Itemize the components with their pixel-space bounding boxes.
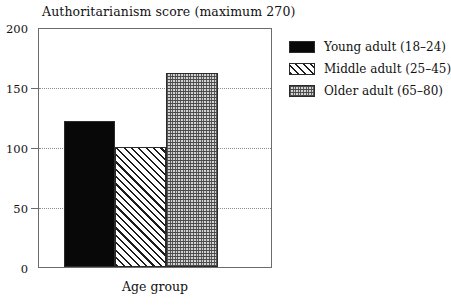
chart-title: Authoritarianism score (maximum 270): [42, 4, 295, 19]
plot-area: [38, 28, 272, 268]
bars-layer: [39, 29, 271, 267]
legend-item-young-adult: Young adult (18–24): [289, 36, 441, 57]
hatched-swatch-icon: [289, 63, 315, 75]
bar-middle-adult: [115, 147, 166, 267]
y-axis-tick-50: [31, 208, 38, 209]
y-axis-labels: 200 150 100 50 0: [0, 0, 28, 307]
legend-label-young-adult: Young adult (18–24): [324, 40, 446, 54]
bar-young-adult: [64, 121, 115, 267]
y-axis-label-100: 100: [0, 142, 28, 156]
y-axis-label-50: 50: [0, 202, 28, 216]
y-axis-tick-150: [31, 88, 38, 89]
chart-legend: Young adult (18–24) Middle adult (25–45)…: [289, 36, 441, 102]
y-axis-label-200: 200: [0, 22, 28, 36]
y-axis-label-0: 0: [0, 262, 28, 276]
solid-black-swatch-icon: [289, 41, 315, 53]
x-axis-label: Age group: [38, 279, 272, 294]
y-axis-tick-100: [31, 148, 38, 149]
dotted-swatch-icon: [289, 85, 315, 97]
y-axis-label-150: 150: [0, 82, 28, 96]
legend-label-middle-adult: Middle adult (25–45): [324, 62, 451, 76]
legend-label-older-adult: Older adult (65–80): [324, 84, 443, 98]
legend-item-older-adult: Older adult (65–80): [289, 80, 441, 101]
bar-older-adult: [166, 73, 218, 267]
legend-item-middle-adult: Middle adult (25–45): [289, 58, 441, 79]
